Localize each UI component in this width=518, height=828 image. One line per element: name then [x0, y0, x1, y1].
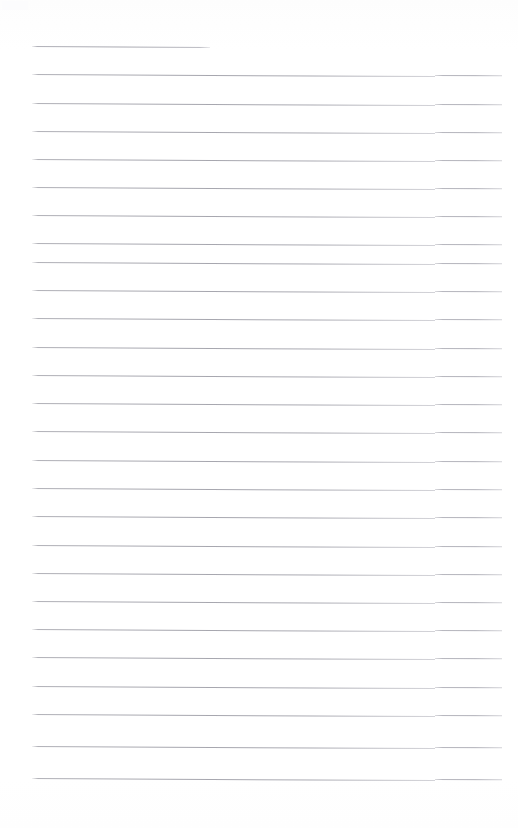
ruled-line: [32, 714, 435, 717]
ruled-line-tail: [435, 432, 502, 433]
ruled-line-tail: [435, 376, 502, 377]
ruled-line-tail: [435, 263, 502, 264]
ruled-line: [32, 488, 435, 491]
ruled-line-tail: [435, 602, 502, 603]
ruled-line-tail: [435, 489, 502, 490]
ruled-line: [32, 545, 435, 548]
ruled-line-tail: [435, 747, 502, 748]
ruled-line: [32, 159, 435, 162]
ruled-line-tail: [435, 715, 502, 716]
ruled-line: [32, 657, 435, 660]
ruled-line-tail: [435, 348, 502, 349]
ruled-line: [32, 460, 435, 463]
ruled-line: [32, 686, 435, 689]
ruled-line: [32, 187, 435, 190]
ruled-line-tail: [435, 160, 502, 161]
ruled-line: [32, 46, 210, 48]
ruled-line: [32, 347, 435, 350]
ruled-line: [32, 629, 435, 632]
ruled-line: [32, 601, 435, 604]
ruled-line: [32, 103, 435, 106]
ruled-line-tail: [435, 319, 502, 320]
ruled-line: [32, 778, 435, 781]
ruled-line: [32, 516, 435, 519]
ruled-line: [32, 375, 435, 378]
lined-paper-page: [0, 0, 518, 828]
ruled-line: [32, 403, 435, 406]
ruled-line: [32, 431, 435, 434]
ruled-line-tail: [435, 244, 502, 245]
ruled-line: [32, 131, 435, 134]
ruled-line-tail: [435, 188, 502, 189]
ruled-line-tail: [435, 658, 502, 659]
ruled-line-tail: [435, 574, 502, 575]
ruled-line: [32, 74, 435, 77]
ruled-line: [32, 318, 435, 321]
ruled-line-tail: [435, 216, 502, 217]
ruled-line: [32, 215, 435, 218]
ruled-line-tail: [435, 404, 502, 405]
ruled-line: [32, 746, 435, 749]
ruled-line-tail: [435, 104, 502, 105]
ruled-line-tail: [435, 546, 502, 547]
ruled-line-tail: [435, 75, 502, 76]
paper-texture: [0, 0, 518, 828]
ruled-line: [32, 243, 435, 246]
ruled-line: [32, 262, 435, 265]
ruled-line: [32, 290, 435, 293]
ruled-line-tail: [435, 630, 502, 631]
ruled-line-tail: [435, 517, 502, 518]
scan-corner-artifact: [2, 1, 28, 10]
ruled-line-tail: [435, 291, 502, 292]
ruled-line-tail: [435, 687, 502, 688]
ruled-line-tail: [435, 132, 502, 133]
ruled-line-tail: [435, 779, 502, 780]
ruled-line: [32, 573, 435, 576]
ruled-line-tail: [435, 461, 502, 462]
